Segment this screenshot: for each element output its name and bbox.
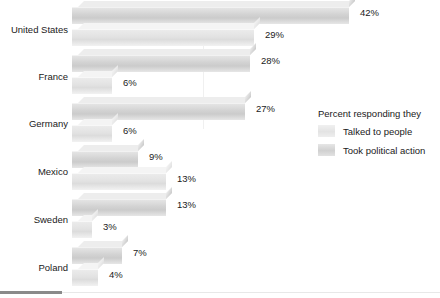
value-label-germany-took-political-action: 27% [256,103,275,114]
value-label-united-states-talked-to-people: 29% [265,29,284,40]
category-label-france: France [0,71,68,82]
value-label-sweden-took-political-action: 13% [177,199,196,210]
bar-mexico-took-political-action [72,151,138,167]
chart-legend: Percent responding they Talked to people… [318,108,440,163]
bar-united-states-talked-to-people [72,29,254,45]
value-label-france-talked-to-people: 6% [123,77,137,88]
bar-front-face [72,173,166,190]
bar-end-cap [122,235,128,247]
bar-france-took-political-action [72,55,250,71]
bar-poland-talked-to-people [72,269,98,285]
legend-item-talked-to-people: Talked to people [318,125,440,137]
category-label-poland: Poland [0,262,68,273]
category-axis: United States France Germany Mexico Swed… [0,0,68,298]
legend-swatch-talked-to-people [318,125,335,137]
bar-front-face [72,199,166,216]
bar-front-face [72,29,254,46]
bar-front-face [72,151,138,168]
bar-front-face [72,55,250,72]
category-label-germany: Germany [0,118,68,129]
legend-item-took-political-action: Took political action [318,144,440,156]
value-label-mexico-talked-to-people: 13% [177,173,196,184]
bar-front-face [72,125,112,142]
bar-end-cap [349,0,355,7]
value-label-mexico-took-political-action: 9% [149,151,163,162]
bar-germany-took-political-action [72,103,245,119]
bar-sweden-took-political-action [72,199,166,215]
category-label-united-states: United States [0,24,68,35]
bar-front-face [72,103,245,120]
axis-line-light [62,292,440,293]
value-label-united-states-took-political-action: 42% [360,7,379,18]
value-label-sweden-talked-to-people: 3% [103,221,117,232]
bar-sweden-talked-to-people [72,221,92,237]
bar-end-cap [138,139,144,151]
axis-line-dark [0,291,62,294]
bar-chart: United States France Germany Mexico Swed… [0,0,440,298]
value-label-poland-talked-to-people: 4% [109,269,123,280]
bar-front-face [72,77,112,94]
category-label-mexico: Mexico [0,166,68,177]
bar-front-face [72,221,92,238]
category-label-sweden: Sweden [0,214,68,225]
legend-label-took-political-action: Took political action [343,145,425,156]
bar-front-face [72,7,349,24]
legend-title: Percent responding they [318,108,440,119]
value-label-poland-took-political-action: 7% [133,247,147,258]
bar-end-cap [166,161,172,173]
bar-end-cap [166,187,172,199]
value-label-germany-talked-to-people: 6% [123,125,137,136]
bar-mexico-talked-to-people [72,173,166,189]
bar-united-states-took-political-action [72,7,349,23]
bar-france-talked-to-people [72,77,112,93]
value-label-france-took-political-action: 28% [261,55,280,66]
legend-label-talked-to-people: Talked to people [343,126,412,137]
legend-swatch-took-political-action [318,144,335,156]
bar-front-face [72,269,98,286]
bar-poland-took-political-action [72,247,122,263]
bar-front-face [72,247,122,264]
bar-end-cap [245,91,251,103]
bar-germany-talked-to-people [72,125,112,141]
